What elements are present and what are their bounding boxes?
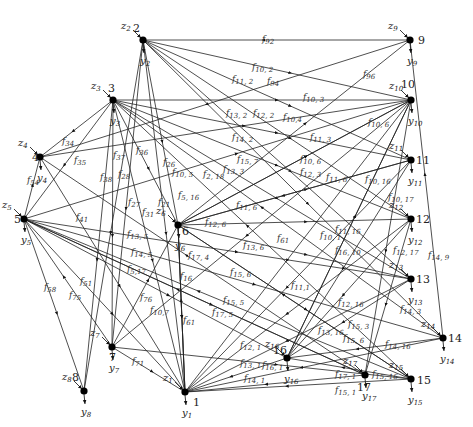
y-label: y8 — [80, 406, 92, 419]
node-17 — [361, 371, 368, 378]
edge-label: f12, 2 — [252, 108, 275, 120]
node-label: 4 — [32, 151, 39, 164]
output-arrow-y4 — [40, 160, 41, 170]
node-5 — [20, 215, 27, 222]
y-label: y9 — [406, 55, 418, 68]
edge-f94 — [40, 40, 410, 157]
edge-label: f12, 16 — [337, 297, 364, 309]
edge-f1217 — [365, 219, 411, 375]
edge-f102 — [143, 40, 411, 100]
y-label: y6 — [174, 240, 186, 253]
node-label: 8 — [72, 371, 79, 384]
edge-f516 — [24, 219, 287, 358]
edge-label: f61 — [182, 315, 195, 327]
z-label: z2 — [120, 20, 131, 33]
node-label: 15 — [417, 374, 431, 387]
edge-label: f71 — [131, 356, 144, 368]
output-arrow-y13 — [411, 282, 412, 292]
z-label: z9 — [387, 20, 398, 33]
y-label: y1 — [181, 407, 192, 420]
z-label: z4 — [17, 137, 28, 150]
edge-label: f28 — [117, 169, 131, 181]
edge-label: f15, 5 — [222, 295, 245, 307]
node-label: 6 — [182, 225, 189, 238]
node-label: 1 — [193, 396, 200, 409]
edge-label: f17, 5 — [211, 307, 234, 319]
node-8 — [80, 387, 87, 394]
z-label: z16 — [264, 338, 280, 351]
node-label: 12 — [416, 213, 430, 226]
edge-label: f27 — [127, 197, 141, 209]
edge-label: f37 — [112, 150, 126, 162]
node-14 — [439, 334, 446, 341]
edge-label: f10, 16 — [364, 174, 391, 186]
edge-label: f10, 5 — [171, 167, 194, 179]
edge-label: f13, 16 — [317, 325, 344, 337]
edge-label: f76 — [139, 292, 153, 304]
edge-label: f11, 16 — [334, 224, 361, 236]
edge-label: f34 — [61, 136, 74, 148]
edge-label: f13, 2 — [225, 108, 248, 120]
z-label: z7 — [89, 327, 100, 340]
edge-label: f51 — [79, 276, 92, 288]
input-arrow-z9 — [400, 30, 408, 38]
edge-label: f11, 6 — [325, 172, 348, 184]
edge-label: f17, 1 — [334, 369, 356, 381]
edge-label: f12, 3 — [299, 167, 322, 179]
z-label: z1 — [162, 372, 173, 385]
z-label: z14 — [420, 318, 435, 331]
node-label: 5 — [14, 213, 21, 226]
y-label: y12 — [407, 234, 423, 247]
node-label: 2 — [133, 22, 140, 35]
output-arrow-y12 — [411, 222, 412, 232]
edge-label: f92 — [261, 34, 275, 46]
edge-label: f58 — [43, 282, 57, 294]
edge-label: f10, 2 — [251, 62, 274, 74]
edge-label: f61 — [276, 233, 289, 245]
edge-label: f75 — [68, 290, 82, 302]
edge-label: f10, 6 — [367, 117, 390, 129]
node-9 — [406, 36, 413, 43]
edge-label: f2, 18 — [202, 169, 225, 181]
edge-label: f10, 3 — [302, 92, 325, 104]
edge-label: f35 — [73, 155, 87, 167]
input-arrow-z1 — [175, 382, 183, 390]
y-label: y11 — [407, 175, 423, 188]
output-arrow-y1 — [185, 395, 186, 405]
edge-label: f16 — [179, 271, 193, 283]
edge-label: f10, 17 — [387, 192, 414, 204]
edge-f27 — [112, 40, 143, 347]
edge-label: f14, 9 — [427, 250, 450, 262]
node-2 — [139, 36, 146, 43]
node-label: 11 — [416, 154, 430, 167]
node-label: 14 — [448, 332, 462, 345]
y-label: y7 — [108, 362, 120, 375]
node-10 — [407, 96, 414, 103]
network-diagram: 1z1y12z2y23z3y34z4y45z5y56z6y67z7y78z8y8… — [0, 0, 473, 427]
edge-label: f15, 1 — [334, 385, 356, 397]
edge-label: f16, 1 — [261, 360, 283, 372]
edge-label: f15, 3 — [347, 319, 370, 331]
edge-f51 — [24, 219, 185, 392]
edge-label: f15, 7 — [236, 154, 259, 166]
edge-label: f10, 6 — [299, 154, 322, 166]
output-arrow-y15 — [411, 382, 412, 392]
edge-label: f14, 1 — [243, 373, 265, 385]
edge-f58 — [24, 219, 84, 391]
z-label: z3 — [90, 80, 101, 93]
edge-label: f94 — [266, 76, 279, 88]
y-label: y16 — [283, 373, 299, 386]
edge-f76 — [112, 225, 178, 347]
edge-label: f14, 16 — [384, 339, 411, 351]
z-label: z13 — [388, 259, 404, 272]
edge-label: f10,4 — [282, 112, 302, 124]
edge-label: f10,7 — [149, 305, 169, 317]
edge-f155 — [24, 219, 411, 379]
edge-label: f14, 2 — [231, 132, 254, 144]
output-arrow-y11 — [411, 163, 412, 173]
edge-label: f11, 3 — [309, 132, 332, 144]
node-15 — [407, 375, 414, 382]
edge-label: f17, 4 — [187, 250, 209, 262]
edge-label: f5, 16 — [177, 190, 200, 202]
z-label: z8 — [61, 371, 72, 384]
